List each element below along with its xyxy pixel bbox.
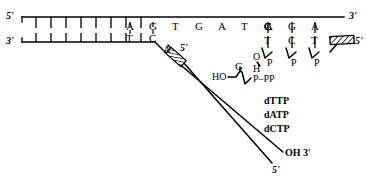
nascent-strand-5prime-label: 5' — [272, 165, 280, 175]
phosphate-1: P — [267, 58, 273, 68]
top-base-5: A — [218, 21, 226, 32]
displaced-strand-5prime-label: 5' — [180, 43, 188, 53]
bottom-strand-3prime-label: 3' — [6, 36, 14, 46]
hydroxyl-o-label: O — [253, 52, 260, 62]
top-base-1: A — [126, 21, 134, 32]
incoming-base-g: G — [235, 61, 243, 72]
displaced-strand-base-a: A — [163, 44, 171, 55]
dntp-dttp: dTTP — [264, 96, 289, 106]
top-strand-3prime-label: 3' — [349, 11, 357, 21]
top-base-a3: A — [311, 21, 319, 32]
dna-replication-figure: 5' 3' 3' A G T G A T C C C A G A T C A 5… — [0, 0, 366, 185]
top-base-g2: G — [288, 21, 296, 32]
hydroxyl-left-label: HO — [212, 72, 226, 82]
phosphate-3: P — [314, 58, 320, 68]
triphosphate-label: P–PP — [253, 74, 275, 84]
top-base-a2: A — [265, 21, 273, 32]
top-base-3: T — [172, 21, 179, 32]
dntp-dctp: dCTP — [264, 124, 290, 134]
phosphate-2: P — [291, 58, 297, 68]
top-base-2: G — [149, 21, 157, 32]
bottom-base-t: T — [126, 33, 133, 44]
nascent-strand-3prime-oh-label: OH 3' — [285, 148, 311, 158]
top-base-4: G — [195, 21, 203, 32]
dntp-datp: dATP — [264, 110, 289, 120]
primer-base-c: C — [288, 35, 295, 46]
primer-base-t2: T — [311, 35, 318, 46]
primer-base-t1: T — [264, 35, 271, 46]
top-strand-5prime-label: 5' — [6, 11, 14, 21]
primer-5prime-label: 5' — [355, 36, 363, 46]
bottom-base-c: C — [149, 33, 156, 44]
top-base-6: T — [241, 21, 248, 32]
